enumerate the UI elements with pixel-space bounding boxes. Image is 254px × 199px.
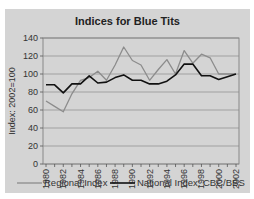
y-tick-label: 120	[23, 51, 38, 61]
y-tick-label: 60	[28, 105, 38, 115]
y-tick-label: 20	[28, 141, 38, 151]
x-tick-label: 1990	[127, 169, 137, 189]
x-tick-label: 1988	[110, 169, 120, 189]
y-axis-label: Index: 2002=100	[7, 67, 17, 134]
y-tick-label: 80	[28, 87, 38, 97]
y-tick-label: 100	[23, 69, 38, 79]
y-tick-label: 140	[23, 33, 38, 43]
y-tick-label: 0	[33, 159, 38, 169]
y-tick-label: 40	[28, 123, 38, 133]
line-chart: 020406080100120140Index: 2002=1001980198…	[0, 0, 254, 199]
legend-label-regional: Regional Index	[44, 177, 108, 188]
legend-label-national: National Index: CBC/BBS	[137, 177, 245, 188]
